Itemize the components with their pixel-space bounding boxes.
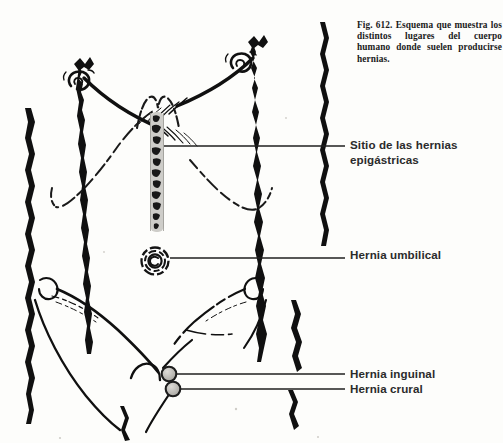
right-iliac-crest-and-inguinal-ligament (173, 278, 266, 348)
right-thigh-outline (288, 300, 302, 430)
leader-lines (164, 146, 345, 389)
epigastric-marker-band (150, 112, 164, 232)
umbilical-marker-spiral (141, 247, 169, 275)
left-costal-arch-hook (51, 188, 56, 207)
lower-abdomen-fold (186, 330, 232, 335)
figure-caption: Fig. 612. Esquema que muestra los distin… (357, 20, 502, 65)
right-costal-arch-dashed (190, 160, 259, 210)
torso-left-flank-outline (25, 108, 35, 424)
left-thigh-outline (120, 406, 130, 441)
pubic-arch-outline (131, 364, 160, 380)
figure-container: Fig. 612. Esquema que muestra los distin… (0, 0, 503, 443)
label-hernia-inguinal: Hernia inguinal (350, 367, 500, 382)
left-iliac-crest-and-inguinal-ligament (35, 278, 158, 430)
crural-marker-dot (166, 382, 181, 397)
torso-right-flank-outline (320, 22, 329, 246)
label-hernia-umbilical: Hernia umbilical (350, 248, 500, 263)
scan-speckle (59, 117, 319, 439)
label-hernia-epigastrica: Sitio de las hernias epigástricas (350, 138, 500, 167)
right-arm-outline (248, 35, 268, 362)
label-hernia-crural: Hernia crural (350, 382, 500, 397)
inguinal-marker-dot (162, 367, 177, 382)
